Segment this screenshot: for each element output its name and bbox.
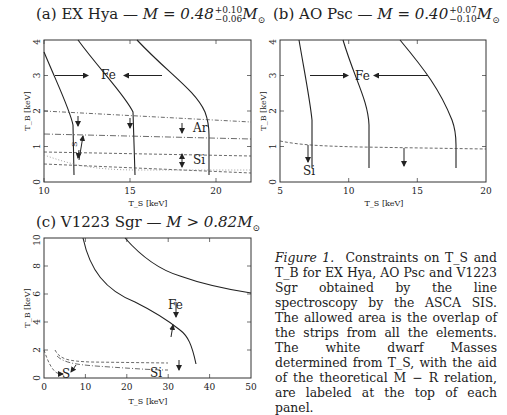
ytick: 4 [32,319,42,325]
x-axis-label: T_S [keV] [365,199,404,208]
label-si: Si [303,164,315,178]
xtick: 5 [277,186,283,196]
x-axis-label: T_S [keV] [129,397,168,406]
ytick: 6 [32,291,42,297]
ytick: 1 [32,144,42,150]
ytick: 3 [268,72,278,78]
label-fe: Fe [355,69,370,83]
label-ar: Ar [192,121,208,135]
label-fe: Fe [168,298,183,312]
xtick: 20 [480,186,492,196]
xtick: 20 [121,382,133,392]
xtick: 15 [124,186,136,196]
y-axis-label: T_B [keV] [23,288,32,327]
panel-a-plot: 10 15 20 0 1 2 3 4 T_S [keV] T_B [keV] [23,39,251,208]
xtick: 20 [210,186,222,196]
xtick: 40 [204,382,216,392]
ytick: 4 [32,39,42,45]
ytick: 0 [268,179,278,185]
caption-text: Constraints on T_S and T_B for EX Hya, A… [275,250,497,415]
ytick: 2 [32,108,42,114]
y-axis-label: T_B [keV] [23,91,32,130]
figure-caption: Figure 1. Constraints on T_S and T_B for… [275,250,497,415]
ytick: 10 [32,234,42,246]
caption-figure-label: Figure 1. [275,250,334,265]
ytick: 8 [32,263,42,269]
ytick: 3 [32,72,42,78]
panel-c-plot: 0 10 20 30 40 50 0 2 4 6 8 10 T_S [keV] … [23,234,257,406]
label-si: Si [150,366,162,380]
xtick: 15 [412,186,424,196]
xtick: 10 [80,382,92,392]
panel-b-plot: 5 10 15 20 0 1 2 3 4 T_S [keV] T_B [keV]… [259,39,492,208]
x-axis-label: T_S [keV] [129,199,168,208]
ytick: 1 [268,144,278,150]
label-si: Si [193,153,205,167]
ytick: 2 [32,347,42,353]
label-fe: Fe [101,68,116,82]
xtick: 50 [245,382,257,392]
ytick: 0 [32,375,42,381]
y-axis-label: T_B [keV] [259,91,268,130]
ytick: 2 [268,108,278,114]
xtick: 0 [41,382,47,392]
label-s: S [70,142,79,147]
ytick: 4 [268,39,278,45]
xtick: 10 [38,186,50,196]
xtick: 30 [162,382,174,392]
label-s: S [62,367,70,381]
xtick: 10 [343,186,355,196]
ytick: 0 [32,179,42,185]
